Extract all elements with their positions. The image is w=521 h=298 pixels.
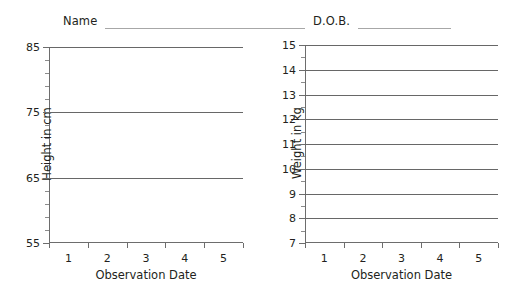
height-x-axis-title: Observation Date (49, 268, 243, 282)
height-chart: Height in cm Observation Date 8575655512… (0, 0, 260, 298)
height-x-tick (127, 243, 128, 248)
weight-y-minor-tick (301, 231, 305, 232)
height-plot-area: Height in cm Observation Date 8575655512… (49, 47, 243, 243)
height-x-tick-label: 1 (65, 253, 72, 264)
weight-y-minor-tick (301, 57, 305, 58)
weight-y-minor-tick (301, 82, 305, 83)
weight-x-tick (305, 243, 306, 248)
weight-y-minor-tick (301, 206, 305, 207)
weight-x-axis-line (305, 242, 498, 243)
height-x-tick (165, 243, 166, 248)
height-y-minor-tick (45, 230, 49, 231)
weight-x-tick-label: 3 (398, 253, 405, 264)
height-gridline (49, 47, 243, 48)
weight-y-tick-label: 15 (282, 40, 296, 51)
height-y-tick-label: 55 (26, 238, 40, 249)
weight-y-tick-label: 11 (282, 139, 296, 150)
height-x-tick-label: 2 (104, 253, 111, 264)
weight-gridline (305, 70, 498, 71)
height-x-tick-label: 4 (181, 253, 188, 264)
height-x-tick (243, 243, 244, 248)
weight-gridline (305, 144, 498, 145)
weight-y-minor-tick (301, 181, 305, 182)
height-y-minor-tick (45, 191, 49, 192)
height-y-minor-tick (45, 99, 49, 100)
weight-gridline (305, 218, 498, 219)
height-y-minor-tick (45, 152, 49, 153)
weight-y-tick-label: 14 (282, 64, 296, 75)
weight-y-minor-tick (301, 156, 305, 157)
height-y-minor-tick (45, 125, 49, 126)
height-y-minor-tick (45, 217, 49, 218)
weight-x-tick-label: 5 (475, 253, 482, 264)
height-y-tick-label: 85 (26, 42, 40, 53)
height-x-tick (204, 243, 205, 248)
weight-chart: Weight in kg Observation Date 1514131211… (255, 0, 521, 298)
weight-x-tick (382, 243, 383, 248)
weight-x-tick (344, 243, 345, 248)
weight-y-minor-tick (301, 132, 305, 133)
weight-y-tick-label: 9 (289, 188, 296, 199)
height-y-axis-title: Height in cm (40, 84, 54, 204)
weight-x-axis-title: Observation Date (305, 268, 498, 282)
weight-plot-area: Weight in kg Observation Date 1514131211… (305, 45, 498, 243)
weight-x-tick-label: 2 (359, 253, 366, 264)
weight-gridline (305, 169, 498, 170)
height-x-axis-line (49, 242, 243, 243)
height-y-minor-tick (45, 165, 49, 166)
height-y-minor-tick (45, 204, 49, 205)
height-x-tick-label: 3 (143, 253, 150, 264)
weight-y-tick-label: 7 (289, 238, 296, 249)
weight-y-tick-label: 13 (282, 89, 296, 100)
height-y-minor-tick (45, 138, 49, 139)
weight-x-tick (421, 243, 422, 248)
height-y-minor-tick (45, 60, 49, 61)
weight-x-tick (498, 243, 499, 248)
weight-x-tick-label: 1 (321, 253, 328, 264)
weight-gridline (305, 95, 498, 96)
height-gridline (49, 112, 243, 113)
height-gridline (49, 178, 243, 179)
height-x-tick (49, 243, 50, 248)
height-y-minor-tick (45, 86, 49, 87)
weight-x-tick (459, 243, 460, 248)
height-y-minor-tick (45, 73, 49, 74)
weight-gridline (305, 45, 498, 46)
height-y-tick-label: 75 (26, 107, 40, 118)
weight-x-tick-label: 4 (437, 253, 444, 264)
weight-y-tick-label: 12 (282, 114, 296, 125)
height-x-tick (88, 243, 89, 248)
weight-y-tick-label: 10 (282, 163, 296, 174)
height-y-tick-label: 65 (26, 172, 40, 183)
weight-y-minor-tick (301, 107, 305, 108)
weight-gridline (305, 194, 498, 195)
height-x-tick-label: 5 (220, 253, 227, 264)
weight-y-tick-label: 8 (289, 213, 296, 224)
weight-gridline (305, 119, 498, 120)
